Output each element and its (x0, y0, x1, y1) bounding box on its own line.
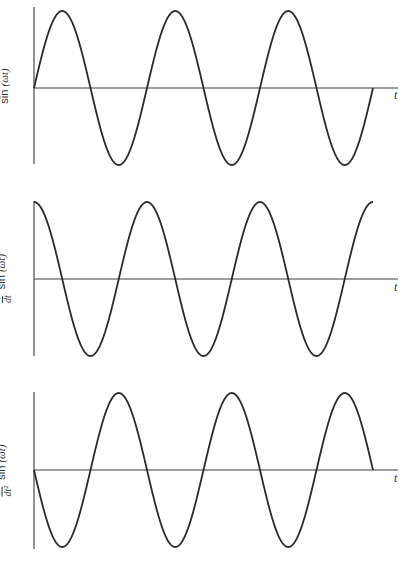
panel2-xlabel: t (394, 280, 397, 295)
ylabel-sin: sin (0, 466, 7, 480)
ylabel-sin: sin (0, 275, 7, 289)
panel2-ylabel: d dt sin (ωt) (0, 254, 13, 303)
ylabel-arg: (ωt) (0, 68, 10, 86)
ylabel-sin: sin (0, 90, 10, 104)
ylabel-second-derivative-fraction: d² dt² (0, 486, 13, 497)
panel-2 (34, 201, 398, 356)
ylabel-arg: (ωt) (0, 444, 7, 462)
frac-den: dt² (3, 486, 13, 497)
panel-1 (34, 7, 398, 165)
panel1-ylabel: sin (ωt) (0, 68, 10, 103)
frac-den: dt (3, 295, 13, 303)
derivative-waveforms-figure: sin (ωt) t d dt sin (ωt) t d² dt² sin (ω… (0, 0, 414, 569)
panel3-ylabel: d² dt² sin (ωt) (0, 444, 13, 496)
waveform-plots (0, 0, 414, 569)
panel3-xlabel: t (394, 471, 397, 486)
panel1-xlabel: t (394, 88, 397, 103)
ylabel-derivative-fraction: d dt (0, 295, 13, 303)
ylabel-arg: (ωt) (0, 254, 7, 272)
panel-3 (34, 392, 398, 549)
